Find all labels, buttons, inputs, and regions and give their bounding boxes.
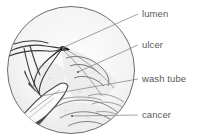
- anchor-dot-washtube: [40, 95, 42, 97]
- label-wash-tube: wash tube: [142, 73, 186, 84]
- anchor-dot-ulcer: [77, 71, 79, 73]
- anchor-dot-cancer: [71, 115, 73, 117]
- label-lumen: lumen: [142, 8, 168, 19]
- endoscopy-figure: lumen ulcer wash tube cancer: [0, 0, 205, 139]
- label-ulcer: ulcer: [142, 39, 163, 50]
- label-cancer: cancer: [142, 109, 171, 120]
- illustration-canvas: [0, 0, 205, 139]
